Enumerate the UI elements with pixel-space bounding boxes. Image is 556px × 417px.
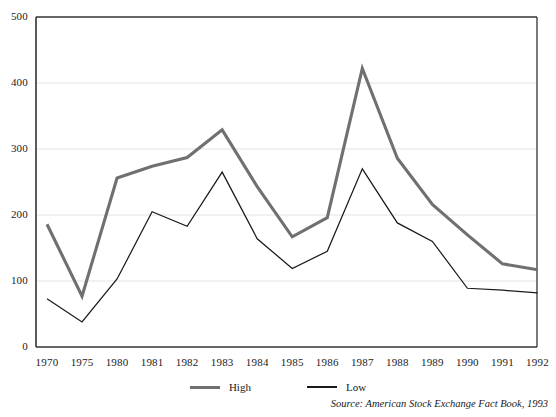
legend-swatch-high-icon [190, 386, 220, 389]
series-line-low [47, 169, 537, 322]
y-tick-label-300: 300 [0, 142, 28, 154]
line-chart: 5004003002001000 19701975198019811982198… [0, 0, 556, 417]
x-tick-label-1975: 1975 [62, 356, 102, 368]
x-tick-label-1984: 1984 [237, 356, 277, 368]
y-tick-label-400: 400 [0, 76, 28, 88]
x-tick-label-1985: 1985 [272, 356, 312, 368]
axis-lines [36, 17, 537, 347]
x-tick-label-1980: 1980 [97, 356, 137, 368]
chart-legend: High Low [0, 381, 556, 393]
y-tick-label-200: 200 [0, 208, 28, 220]
gridlines [36, 83, 537, 281]
legend-label-high: High [229, 381, 251, 393]
legend-label-low: Low [346, 381, 366, 393]
source-note: Source: American Stock Exchange Fact Boo… [331, 398, 548, 409]
x-tick-label-1986: 1986 [307, 356, 347, 368]
x-tick-label-1983: 1983 [202, 356, 242, 368]
x-tick-label-1992: 1992 [517, 356, 556, 368]
x-tick-label-1990: 1990 [447, 356, 487, 368]
x-tick-label-1989: 1989 [412, 356, 452, 368]
legend-item-low[interactable]: Low [307, 381, 366, 393]
y-tick-label-0: 0 [0, 340, 28, 352]
series-line-high [47, 68, 537, 296]
y-tick-label-500: 500 [0, 10, 28, 22]
legend-item-high[interactable]: High [190, 381, 251, 393]
legend-swatch-low-icon [307, 386, 337, 387]
x-tick-label-1987: 1987 [342, 356, 382, 368]
x-tick-label-1988: 1988 [377, 356, 417, 368]
chart-plot-area [0, 0, 556, 417]
data-series-layer [47, 68, 537, 321]
y-tick-label-100: 100 [0, 274, 28, 286]
x-tick-label-1982: 1982 [167, 356, 207, 368]
x-tick-label-1970: 1970 [27, 356, 67, 368]
x-tick-label-1981: 1981 [132, 356, 172, 368]
x-tick-label-1991: 1991 [482, 356, 522, 368]
